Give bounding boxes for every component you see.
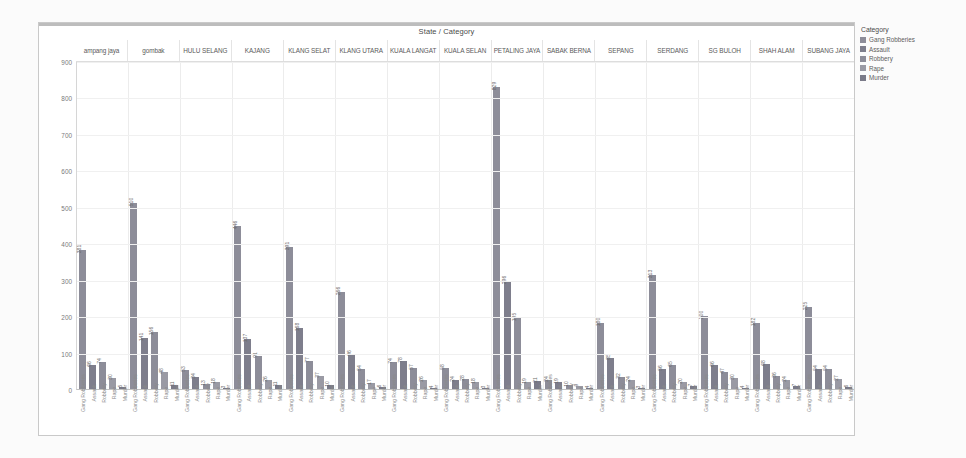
bar-group: 3135665207 [646, 62, 698, 389]
chart-page: State / Category ampang jayagombakHULU S… [0, 0, 966, 458]
state-header-cell[interactable]: SABAK BERNA [542, 40, 594, 61]
legend-items: Gang RobberiesAssaultRobberyRapeMurder [860, 36, 962, 81]
bar-slot: 3 [221, 62, 231, 389]
bar[interactable]: 156 [151, 332, 158, 389]
bar-slot: 78 [398, 62, 408, 389]
legend-item[interactable]: Robbery [860, 55, 962, 62]
bar[interactable]: 141 [141, 338, 148, 389]
bar-value-label: 26 [419, 376, 424, 382]
bar-group: 24191094 [543, 62, 595, 389]
bar[interactable]: 446 [234, 226, 241, 389]
bar-slot: 13 [201, 62, 211, 389]
state-header-cell[interactable]: SHAH ALAM [750, 40, 802, 61]
legend-item[interactable]: Assault [860, 46, 962, 53]
plot-area: 3816674305510141156481153341318344613791… [76, 62, 854, 390]
bar-slot: 225 [803, 62, 813, 389]
tick-slot: Robbery [460, 391, 470, 458]
tick-slot: Murder [221, 391, 231, 458]
state-header-cell[interactable]: ampang jaya [76, 40, 127, 61]
state-header-cell[interactable]: SUBANG JAYA [802, 40, 854, 61]
bar[interactable]: 381 [79, 250, 86, 389]
tick-slot: Murder [844, 391, 854, 458]
tick-group: Gang RobberiesAssaultRobberyRapeMurder [387, 391, 439, 458]
bar[interactable]: 510 [130, 203, 137, 389]
bar-value-label: 141 [139, 332, 144, 340]
tick-slot: Assault [242, 391, 252, 458]
tick-slot: Rape [833, 391, 843, 458]
bar-slot: 10 [325, 62, 335, 389]
legend-item-label: Murder [869, 74, 889, 81]
bar-slot: 34 [191, 62, 201, 389]
bar-value-label: 54 [823, 366, 828, 372]
state-header-cell[interactable]: PETALING JAYA [491, 40, 543, 61]
state-header-cell[interactable]: KLANG UTARA [335, 40, 387, 61]
plot-wrapper: 0100200300400500600700800900 38166743055… [39, 62, 854, 435]
bar-value-label: 381 [77, 245, 82, 253]
bar[interactable]: 137 [244, 339, 251, 389]
bar-value-label: 24 [626, 376, 631, 382]
bar[interactable]: 829 [493, 87, 500, 389]
bar-slot: 74 [97, 62, 107, 389]
bar-slot: 48 [159, 62, 169, 389]
y-axis-tick-label: 600 [61, 168, 72, 175]
tick-slot: Gang Robberies [802, 391, 812, 458]
state-header-cell[interactable]: KAJANG [231, 40, 283, 61]
bar-value-label: 24 [782, 376, 787, 382]
bar[interactable]: 296 [504, 281, 511, 389]
tick-slot: Gang Robberies [387, 391, 397, 458]
bar[interactable]: 313 [649, 275, 656, 389]
state-header-cell[interactable]: KUALA SELAN [439, 40, 491, 61]
bar-value-label: 266 [336, 287, 341, 295]
tick-slot: Assault [709, 391, 719, 458]
legend-title: Category [860, 26, 962, 33]
legend-item[interactable]: Rape [860, 65, 962, 72]
legend-item-label: Gang Robberies [869, 36, 915, 43]
legend-item[interactable]: Gang Robberies [860, 36, 962, 43]
tick-slot: Rape [418, 391, 428, 458]
state-header-cell[interactable]: SEPANG [594, 40, 646, 61]
tick-group: Gang RobberiesAssaultRobberyRapeMurder [698, 391, 750, 458]
tick-slot: Assault [605, 391, 615, 458]
bar-slot: 180 [596, 62, 606, 389]
tick-slot: Gang Robberies [698, 391, 708, 458]
bar-slot: 381 [77, 62, 87, 389]
bar-slot: 85 [606, 62, 616, 389]
tick-slot: Murder [740, 391, 750, 458]
bar-slot: 7 [792, 62, 802, 389]
chart-frame: State / Category ampang jayagombakHULU S… [38, 22, 855, 436]
bar-slot: 74 [388, 62, 398, 389]
y-axis-tick-label: 200 [61, 314, 72, 321]
tick-slot: Assault [449, 391, 459, 458]
gridline [77, 98, 854, 99]
bar-value-label: 24 [450, 376, 455, 382]
bar-slot: 17 [367, 62, 377, 389]
bar-group: 533413183 [180, 62, 232, 389]
legend-item-label: Assault [869, 46, 890, 53]
state-header-cell[interactable]: SERDANG [646, 40, 698, 61]
bar-slot: 65 [668, 62, 678, 389]
state-header-cell[interactable]: SG BULOH [698, 40, 750, 61]
bar-slot: 195 [512, 62, 522, 389]
bar-value-label: 182 [751, 318, 756, 326]
tick-slot: Murder [584, 391, 594, 458]
bar-slot: 54 [823, 62, 833, 389]
legend-swatch-icon [860, 56, 866, 62]
state-header-cell[interactable]: HULU SELANG [179, 40, 231, 61]
tick-group: Gang RobberiesAssaultRobberyRapeMurder [76, 391, 128, 458]
state-header-band: ampang jayagombakHULU SELANGKAJANGKLANG … [76, 40, 854, 62]
bar-value-label: 85 [606, 354, 611, 360]
tick-slot: Rape [159, 391, 169, 458]
state-header-cell[interactable]: KLANG SELAT [283, 40, 335, 61]
legend-item[interactable]: Murder [860, 74, 962, 81]
bar-slot: 200 [699, 62, 709, 389]
bar-slot: 28 [460, 62, 470, 389]
gridline [77, 208, 854, 209]
state-header-cell[interactable]: gombak [127, 40, 179, 61]
state-header-cell[interactable]: KUALA LANGAT [387, 40, 439, 61]
bar[interactable]: 168 [296, 328, 303, 389]
tick-slot: Murder [688, 391, 698, 458]
category-tick-label[interactable]: Murder [849, 385, 854, 401]
tick-slot: Gang Robberies [128, 391, 138, 458]
tick-slot: Murder [532, 391, 542, 458]
bar-slot: 24 [782, 62, 792, 389]
